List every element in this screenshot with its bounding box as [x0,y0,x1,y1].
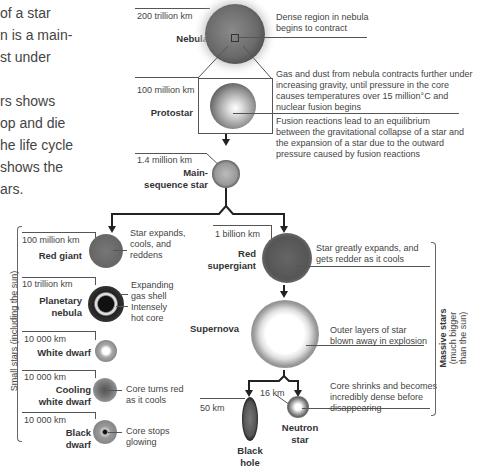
size-leader [200,398,245,399]
massive-stars-brace [431,242,436,416]
desc-leader [113,250,127,251]
label-line: Neutron [280,422,320,434]
arrow-down-icon [108,226,116,233]
red-supergiant-label: Red supergiant [200,248,256,272]
black-hole-size: 50 km [200,403,225,413]
planetary-nebula-core-description: Intensely hot core [131,302,177,324]
supernova-label: Supernova [190,323,238,335]
white-dwarf-label: White dwarf [25,347,91,359]
neutron-star-description: Core shrinks and becomes incredibly dens… [330,381,440,414]
red-giant-description: Star expands, cools, and reddens [130,228,190,261]
desc-leader [296,266,430,267]
label-line: Main- [140,167,208,179]
desc-divider [276,113,459,114]
red-giant-size: 100 million km [22,235,80,245]
label-line: Red [200,248,256,260]
cooling-white-dwarf-label: Cooling white dwarf [25,384,91,408]
small-stars-group-label: Small stars (including the sun) [9,241,19,421]
planetary-nebula-shell-description: Expanding gas shell [131,280,177,302]
label-line: (much bigger [448,293,458,383]
planetary-nebula-illustration [88,286,124,322]
red-supergiant-size: 1 billion km [215,229,260,239]
black-hole-illustration [242,397,258,441]
label-line: Cooling [25,384,91,396]
size-leader [22,370,95,371]
main-sequence-star-illustration [212,160,240,188]
cooling-white-dwarf-description: Core turns red as it cools [126,384,186,406]
size-leader [135,77,198,78]
protostar-label: Protostar [140,107,193,119]
label-line: star [280,434,320,446]
label-line: supergiant [200,260,256,272]
main-sequence-size: 1.4 million km [137,155,192,165]
neutron-star-label: Neutron star [280,422,320,446]
arrow-down-icon [280,291,288,298]
size-leader [22,232,95,233]
red-supergiant-illustration [262,233,312,283]
label-line: sequence star [140,179,208,191]
size-leader [95,277,96,285]
white-dwarf-size: 10 000 km [24,334,66,344]
cooling-white-dwarf-size: 10 000 km [24,372,66,382]
protostar-size: 100 million km [137,85,195,95]
label-line: white dwarf [25,396,91,408]
desc-leader [116,306,128,307]
desc-leader [108,390,122,391]
arrow-down-icon [280,226,288,233]
arrow-down-icon [245,390,253,397]
red-giant-label: Red giant [30,250,82,262]
label-line: Black [25,427,91,439]
black-dwarf-description: Core stops glowing [126,426,186,448]
label-line: Black [224,445,276,457]
label-line: dwarf [25,439,91,451]
main-sequence-label: Main- sequence star [140,167,208,191]
size-leader [95,331,96,340]
black-dwarf-size: 10 000 km [24,415,66,425]
protostar-illustration [210,83,256,129]
size-leader [22,331,95,332]
protostar-description: Gas and dust from nebula contracts furth… [276,69,476,113]
label-line: than the sun) [458,293,468,383]
size-leader [22,412,95,413]
size-leader [22,277,95,278]
red-supergiant-description: Star greatly expands, and gets redder as… [316,243,436,265]
planetary-nebula-size: 10 trillion km [22,279,73,289]
size-leader [95,412,96,419]
arrow-down-icon [222,139,230,146]
desc-leader [120,294,128,295]
main-sequence-description: Fusion reactions lead to an equilibrium … [276,116,466,160]
red-giant-illustration [89,234,123,268]
label-line: Planetary [30,295,82,307]
white-dwarf-illustration [95,340,117,362]
neutron-star-size: 16 km [260,388,285,398]
size-leader [95,370,96,378]
planetary-nebula-label: Planetary nebula [30,295,82,319]
black-dwarf-label: Black dwarf [25,427,91,451]
supernova-description: Outer layers of star blown away in explo… [330,325,430,347]
neutron-star-illustration [287,396,309,418]
desc-leader [108,432,122,433]
size-leader [135,153,206,154]
label-line: Massive stars [438,293,448,383]
black-hole-label: Black hole [224,445,276,467]
massive-stars-group-label: Massive stars (much bigger than the sun) [438,293,470,383]
label-line: nebula [30,307,82,319]
supernova-illustration [251,300,319,368]
label-line: hole [224,457,276,467]
size-leader [213,225,271,226]
